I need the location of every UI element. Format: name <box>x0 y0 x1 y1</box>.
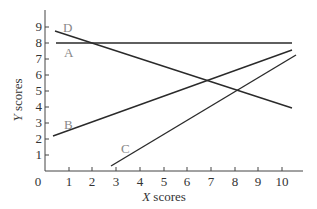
y-axis-title: Y scores <box>10 79 25 122</box>
y-tick-2: 2 <box>36 131 43 146</box>
y-tick-8: 8 <box>36 35 43 50</box>
y-tick-3: 3 <box>36 115 43 130</box>
x-tick-9: 9 <box>255 174 262 189</box>
label-a: A <box>64 45 74 60</box>
x-tick-5: 5 <box>161 174 168 189</box>
x-tick-1: 1 <box>66 174 73 189</box>
label-c: C <box>121 141 130 156</box>
label-b: B <box>64 117 73 132</box>
origin-label: 0 <box>35 174 42 189</box>
x-tick-4: 4 <box>137 174 144 189</box>
x-tick-labels: 0 1 2 3 4 5 6 7 8 9 10 <box>35 174 289 189</box>
x-tick-8: 8 <box>232 174 239 189</box>
x-ticks <box>69 167 282 171</box>
y-tick-6: 6 <box>36 67 43 82</box>
x-tick-7: 7 <box>208 174 215 189</box>
y-tick-4: 4 <box>36 99 43 114</box>
y-tick-labels: 1 2 3 4 5 6 7 8 9 <box>36 19 43 162</box>
line-b <box>53 50 292 136</box>
y-ticks <box>45 27 49 155</box>
x-tick-10: 10 <box>276 174 289 189</box>
y-tick-5: 5 <box>36 83 43 98</box>
y-tick-1: 1 <box>36 147 43 162</box>
line-chart: 1 2 3 4 5 6 7 8 9 0 1 2 3 4 5 6 7 8 9 10… <box>0 0 317 209</box>
line-c <box>111 55 296 166</box>
x-tick-2: 2 <box>89 174 96 189</box>
x-tick-3: 3 <box>113 174 120 189</box>
x-axis-title: X scores <box>141 189 186 204</box>
y-tick-9: 9 <box>36 19 43 34</box>
label-d: D <box>63 20 72 35</box>
y-tick-7: 7 <box>36 51 43 66</box>
x-tick-6: 6 <box>184 174 191 189</box>
